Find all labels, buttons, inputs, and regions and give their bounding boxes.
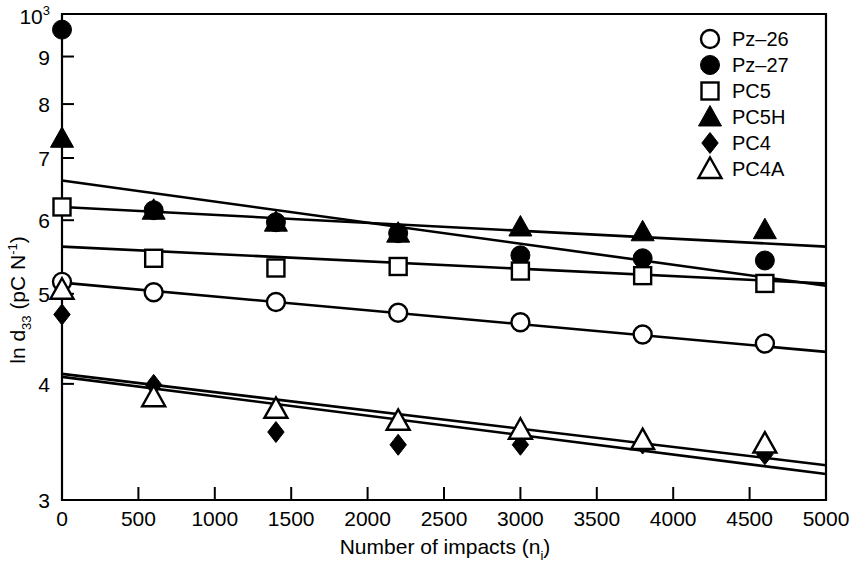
legend-label-pz-26: Pz–26 [732,28,789,50]
legend-label-pc4a: PC4A [732,158,785,180]
x-tick-label: 500 [121,507,156,530]
legend-label-pc4: PC4 [732,132,771,154]
data-point [145,283,163,301]
x-tick-label: 3000 [497,507,544,530]
legend-label-pz-27: Pz–27 [732,54,789,76]
data-point [512,263,529,280]
x-tick-label: 2000 [344,507,391,530]
scatter-plot: 3456789103 05001000150020002500300035004… [0,0,849,566]
y-tick-label: 3 [38,489,50,512]
x-tick-label: 2500 [421,507,468,530]
y-tick-label: 8 [38,93,50,116]
legend-marker-pz-27 [701,56,720,75]
legend-marker-pz-26 [701,30,719,48]
data-point [145,250,162,267]
data-point [756,275,773,292]
data-point [267,293,285,311]
y-tick-label: 9 [38,46,50,69]
data-point [511,313,529,331]
plot-background [0,0,849,566]
x-tick-label: 4000 [650,507,697,530]
data-point [634,326,652,344]
data-point [267,259,284,276]
legend-marker-pc5 [702,83,719,100]
data-point [755,251,774,270]
y-tick-label: 6 [38,209,50,232]
data-point [633,249,652,268]
x-tick-label: 3500 [573,507,620,530]
x-tick-label: 1500 [268,507,315,530]
y-tick-label: 5 [38,283,50,306]
data-point [53,20,72,39]
data-point [389,304,407,322]
legend-label-pc5: PC5 [732,80,771,102]
legend-label-pc5h: PC5H [732,106,785,128]
data-point [756,335,774,353]
x-tick-label: 0 [56,507,68,530]
y-tick-label: 4 [38,373,50,396]
chart-figure: 3456789103 05001000150020002500300035004… [0,0,849,566]
data-point [54,198,71,215]
data-point [634,267,651,284]
x-tick-label: 1000 [191,507,238,530]
data-point [390,258,407,275]
x-tick-label: 5000 [803,507,849,530]
x-tick-label: 4500 [726,507,773,530]
y-tick-label: 7 [38,147,50,170]
